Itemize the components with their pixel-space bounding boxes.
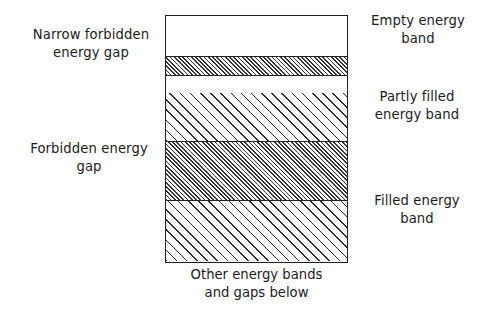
label-filled-energy-band: Filled energy band xyxy=(354,192,480,227)
figure-caption: Other energy bands and gaps below xyxy=(165,266,348,301)
band-narrow-forbidden-energy-gap xyxy=(166,56,347,76)
band-partly-filled-energy-band xyxy=(166,93,347,141)
label-forbidden-energy-gap: Forbidden energy gap xyxy=(14,140,164,175)
energy-band-figure: Narrow forbidden energy gap Forbidden en… xyxy=(0,0,487,318)
band-filled-energy-band xyxy=(166,201,347,261)
label-partly-filled-energy-band: Partly filled energy band xyxy=(352,88,482,123)
band-forbidden-energy-gap xyxy=(166,141,347,201)
band-unlabeled-white-gap xyxy=(166,76,347,93)
label-empty-energy-band: Empty energy band xyxy=(356,12,480,47)
band-empty-energy-band xyxy=(166,16,347,56)
band-column xyxy=(165,15,348,263)
label-narrow-forbidden-energy-gap: Narrow forbidden energy gap xyxy=(18,26,164,61)
